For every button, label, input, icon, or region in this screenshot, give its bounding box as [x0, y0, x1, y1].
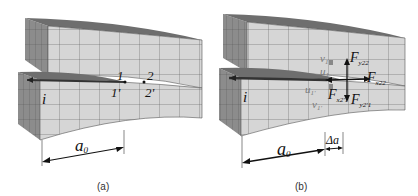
- panel-b: v i v1 u1 u1' v1' Fy22 Fx22 Fx2'1 Fy2'1 …: [209, 0, 418, 196]
- upper-block-side: [223, 14, 247, 72]
- label-node-1: 1: [117, 68, 124, 83]
- label-delta-a: Δa: [325, 133, 339, 147]
- label-i: i: [42, 91, 46, 107]
- dimension-delta-a: Δa: [325, 132, 343, 154]
- arrow-left-icon: [42, 157, 50, 163]
- node-1: [124, 81, 127, 84]
- crack-mesh-diagram-b: v i v1 u1 u1' v1' Fy22 Fx22 Fx2'1 Fy2'1 …: [209, 0, 418, 196]
- label-a0: a0: [277, 139, 291, 159]
- arrow-left-icon: [242, 158, 250, 164]
- arrow-right-icon: [317, 149, 325, 154]
- caption-b: (b): [295, 181, 307, 192]
- panel-a: i 1 1' 2 2' a0 (a): [0, 0, 209, 196]
- label-a0: a0: [75, 136, 89, 155]
- caption-a: (a): [97, 181, 109, 192]
- label-i: i: [243, 89, 247, 105]
- lower-block-side: [18, 72, 40, 140]
- lower-block-face: [40, 80, 202, 140]
- label-node-2: 2: [147, 68, 154, 83]
- crack-mesh-diagram-a: i 1 1' 2 2' a0 (a): [0, 0, 209, 196]
- label-node-1-prime: 1': [111, 85, 121, 100]
- node-2: [143, 81, 146, 84]
- label-node-2-prime: 2': [145, 85, 155, 100]
- dimension-a0: a0: [242, 132, 325, 168]
- arrow-left-icon: [325, 147, 330, 151]
- upper-block-side: [25, 18, 48, 76]
- node-marker-top: [329, 60, 333, 65]
- arrow-right-icon: [116, 147, 124, 152]
